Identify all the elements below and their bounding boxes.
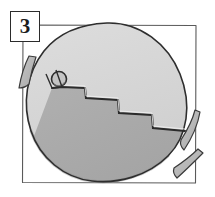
illustration-panel: 3 xyxy=(0,0,215,197)
step-number-label: 3 xyxy=(20,16,31,37)
egg-group xyxy=(26,23,186,182)
step-number-badge: 3 xyxy=(10,11,40,42)
